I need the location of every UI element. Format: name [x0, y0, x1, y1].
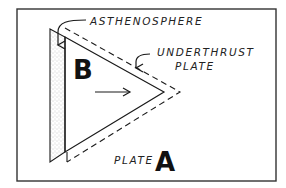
- plate-b-label: B: [73, 55, 93, 85]
- underthrust-label-line2: PLATE: [175, 60, 215, 72]
- plate-a-word: PLATE: [114, 154, 154, 166]
- underthrust-leader: [136, 54, 150, 68]
- plate-a-letter: A: [155, 147, 175, 177]
- asthenosphere-label: ASTHENOSPHERE: [89, 15, 203, 27]
- subduction-diagram: ASTHENOSPHERE UNDERTHRUST PLATE B PLATE …: [0, 0, 286, 188]
- underthrust-label-line1: UNDERTHRUST: [157, 46, 255, 58]
- asthenosphere-band: [50, 29, 65, 162]
